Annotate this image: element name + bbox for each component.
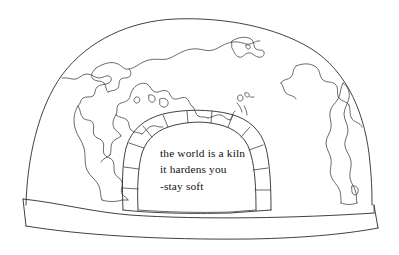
kiln-drawing: the world is a kiln it hardens you -stay… <box>0 0 399 255</box>
kiln-base-plinth <box>23 199 378 239</box>
quote-block: the world is a kiln it hardens you -stay… <box>160 147 245 192</box>
artwork-canvas: the world is a kiln it hardens you -stay… <box>0 0 399 255</box>
world-map-continents <box>62 37 362 204</box>
quote-line-1: the world is a kiln <box>160 147 245 159</box>
quote-line-2: it hardens you <box>160 163 227 175</box>
kiln-arch-opening <box>122 110 271 213</box>
quote-line-3: -stay soft <box>160 180 204 192</box>
island-marks <box>237 93 254 115</box>
kiln-dome <box>26 19 372 205</box>
